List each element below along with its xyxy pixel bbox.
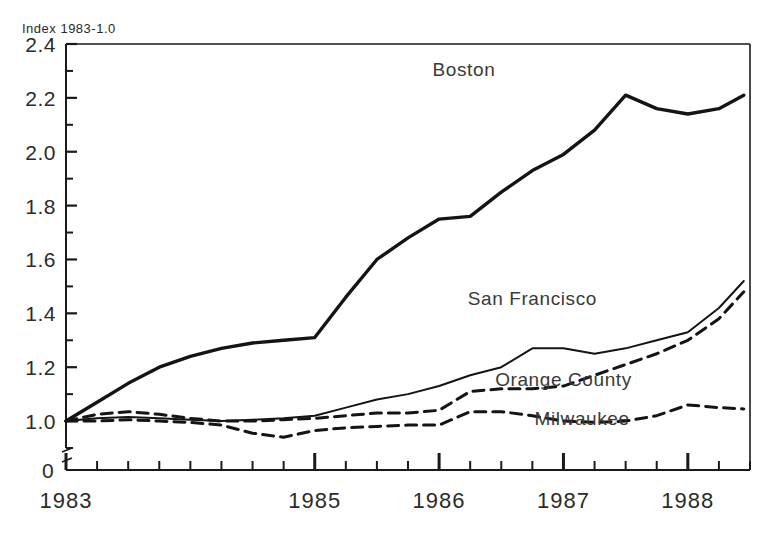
x-tick-label: 1985 [288, 488, 341, 513]
y-tick-label: 1.4 [25, 302, 56, 325]
series-label-milwaukee: Milwaukee [535, 408, 630, 429]
x-axis-ticks: 19831985198619871988 [40, 453, 750, 513]
y-tick-label: 1.6 [25, 248, 56, 271]
y-tick-label: 2.4 [25, 33, 56, 56]
x-tick-label: 1987 [537, 488, 590, 513]
series-label-san-francisco: San Francisco [468, 288, 597, 309]
series-line-milwaukee [66, 405, 744, 437]
series-label-orange-county: Orange County [495, 369, 632, 390]
y-tick-label: 1.8 [25, 195, 56, 218]
y-tick-label: 1.2 [25, 356, 56, 379]
line-chart: Index 1983-1.0 1.01.21.41.61.82.02.22.4 … [0, 0, 771, 537]
x-tick-label: 1988 [661, 488, 714, 513]
x-tick-label: 1986 [413, 488, 466, 513]
x-tick-label: 1983 [40, 488, 93, 513]
y-tick-label: 1.0 [25, 410, 56, 433]
series-line-orange-county [66, 292, 744, 421]
data-series-group [66, 95, 744, 437]
series-line-boston [66, 95, 744, 421]
y-tick-label: 2.2 [25, 87, 56, 110]
y-tick-label: 2.0 [25, 141, 56, 164]
plot-frame [62, 44, 750, 470]
chart-svg: Index 1983-1.0 1.01.21.41.61.82.02.22.4 … [0, 0, 771, 537]
series-line-san-francisco [66, 281, 744, 421]
y-axis-zero-label: 0 [42, 459, 54, 482]
y-axis-ticks: 1.01.21.41.61.82.02.22.4 [25, 33, 77, 448]
series-label-boston: Boston [433, 59, 496, 80]
series-label-group: BostonSan FranciscoOrange CountyMilwauke… [433, 59, 632, 429]
